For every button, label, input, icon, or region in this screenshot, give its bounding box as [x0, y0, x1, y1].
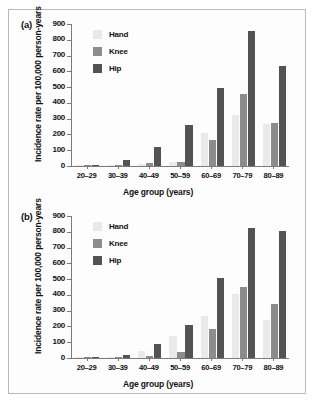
- bar-knee-60-69: [209, 140, 216, 166]
- legend-b: HandKneeHip: [93, 220, 128, 271]
- bar-hip-70-79: [248, 228, 255, 358]
- x-tick-label-30-39: 30–39: [108, 171, 128, 180]
- x-tick-mark: [273, 166, 274, 169]
- legend-item-knee: Knee: [93, 237, 128, 250]
- y-tick-mark: [67, 248, 71, 249]
- bar-hand-40-49: [138, 164, 145, 166]
- figure-frame: (a) Incidence rate per 100,000 person-ye…: [8, 9, 306, 394]
- y-tick-mark: [67, 24, 71, 25]
- x-tick-mark: [242, 358, 243, 361]
- y-tick-mark: [67, 279, 71, 280]
- legend-label-hip: Hip: [109, 64, 121, 73]
- y-tick-mark: [67, 134, 71, 135]
- y-tick-label: 300: [53, 305, 65, 314]
- legend-label-knee: Knee: [109, 239, 128, 248]
- y-tick-mark: [67, 311, 71, 312]
- y-tick-mark: [67, 87, 71, 88]
- y-tick-mark: [67, 71, 71, 72]
- x-tick-mark: [180, 166, 181, 169]
- bar-knee-20-29: [84, 165, 91, 166]
- y-tick-label: 0: [61, 161, 65, 170]
- bar-knee-60-69: [209, 329, 216, 358]
- legend-item-hip: Hip: [93, 62, 128, 75]
- x-tick-label-70-79: 70–79: [232, 363, 252, 372]
- bar-hand-40-49: [138, 351, 145, 358]
- bar-hip-30-39: [123, 160, 130, 166]
- legend-swatch-hip: [93, 64, 102, 73]
- bar-knee-40-49: [146, 356, 153, 358]
- bar-hand-30-39: [107, 165, 114, 166]
- legend-swatch-knee: [93, 239, 102, 248]
- bar-hip-80-89: [279, 66, 286, 166]
- x-tick-mark: [211, 166, 212, 169]
- bar-hip-50-59: [185, 325, 192, 358]
- bar-hand-70-79: [232, 294, 239, 358]
- legend-item-hand: Hand: [93, 220, 128, 233]
- bar-hand-20-29: [76, 357, 83, 358]
- x-tick-label-50-59: 50–59: [170, 363, 190, 372]
- bar-hip-50-59: [185, 125, 192, 166]
- y-tick-mark: [67, 263, 71, 264]
- y-tick-label: 600: [53, 258, 65, 267]
- chart-panel-b: (b) Incidence rate per 100,000 person-ye…: [9, 202, 307, 394]
- x-tick-mark: [87, 166, 88, 169]
- y-tick-label: 800: [53, 226, 65, 235]
- bar-hand-80-89: [263, 320, 270, 358]
- bar-hip-80-89: [279, 231, 286, 358]
- legend-label-knee: Knee: [109, 47, 128, 56]
- y-tick-label: 400: [53, 97, 65, 106]
- y-tick-label: 700: [53, 242, 65, 251]
- y-tick-label: 900: [53, 211, 65, 220]
- chart-panel-a: (a) Incidence rate per 100,000 person-ye…: [9, 10, 307, 202]
- y-tick-label: 600: [53, 66, 65, 75]
- bar-hip-20-29: [92, 357, 99, 358]
- x-tick-label-60-69: 60–69: [201, 363, 221, 372]
- y-axis-title-b: Incidence rate per 100,000 person-years: [33, 204, 43, 354]
- legend-swatch-hand: [93, 222, 102, 231]
- y-tick-mark: [67, 232, 71, 233]
- x-axis-title-a: Age group (years): [9, 187, 307, 197]
- y-tick-mark: [67, 150, 71, 151]
- bar-knee-30-39: [115, 165, 122, 166]
- x-tick-mark: [180, 358, 181, 361]
- x-tick-label-60-69: 60–69: [201, 171, 221, 180]
- bar-hip-60-69: [217, 88, 224, 166]
- x-tick-label-80-89: 80–89: [264, 171, 284, 180]
- legend-a: HandKneeHip: [93, 28, 128, 79]
- x-tick-label-80-89: 80–89: [264, 363, 284, 372]
- y-tick-label: 100: [53, 145, 65, 154]
- bar-hip-20-29: [92, 165, 99, 166]
- legend-swatch-hip: [93, 256, 102, 265]
- x-tick-label-20-29: 20–29: [77, 363, 97, 372]
- bar-hand-30-39: [107, 357, 114, 358]
- y-tick-mark: [67, 103, 71, 104]
- x-tick-label-30-39: 30–39: [108, 363, 128, 372]
- x-tick-label-20-29: 20–29: [77, 171, 97, 180]
- y-tick-label: 500: [53, 82, 65, 91]
- bar-hip-40-49: [154, 344, 161, 358]
- legend-item-hip: Hip: [93, 254, 128, 267]
- y-tick-mark: [67, 56, 71, 57]
- legend-label-hip: Hip: [109, 256, 121, 265]
- y-tick-mark: [67, 295, 71, 296]
- legend-swatch-hand: [93, 30, 102, 39]
- bar-knee-20-29: [84, 357, 91, 358]
- y-tick-label: 500: [53, 274, 65, 283]
- bar-hand-60-69: [201, 316, 208, 358]
- y-tick-label: 900: [53, 19, 65, 28]
- bar-knee-30-39: [115, 357, 122, 358]
- bar-knee-70-79: [240, 94, 247, 166]
- panel-label-a: (a): [21, 19, 32, 30]
- y-tick-label: 700: [53, 50, 65, 59]
- y-tick-mark: [67, 326, 71, 327]
- bar-hip-30-39: [123, 355, 130, 358]
- bar-hand-80-89: [263, 124, 270, 166]
- bar-hip-40-49: [154, 147, 161, 166]
- y-tick-label: 300: [53, 113, 65, 122]
- bar-hip-60-69: [217, 278, 224, 358]
- y-tick-label: 100: [53, 337, 65, 346]
- y-tick-label: 200: [53, 129, 65, 138]
- bar-hand-60-69: [201, 133, 208, 166]
- bar-hand-50-59: [169, 162, 176, 166]
- legend-label-hand: Hand: [109, 222, 128, 231]
